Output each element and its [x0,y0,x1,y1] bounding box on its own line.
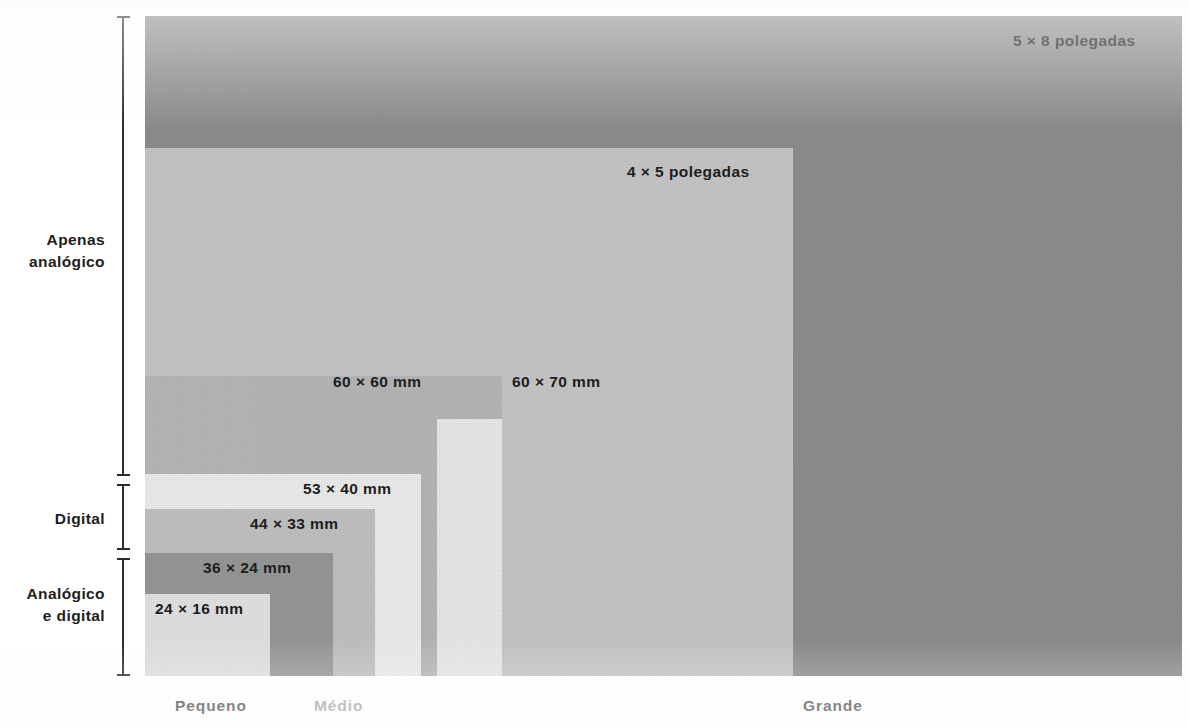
format-label-60x60: 60 × 60 mm [333,373,422,391]
bracket-cap-bottom [117,474,130,476]
axis-label-grande: Grande [803,697,863,715]
bracket-label-apenas-analogico: Apenas analógico [5,229,105,273]
sensor-size-comparison-figure: 5 × 8 polegadas4 × 5 polegadas60 × 70 mm… [0,0,1189,727]
format-rect-60x60 [437,419,502,676]
format-label-5x8: 5 × 8 polegadas [1013,32,1136,50]
format-label-4x5: 4 × 5 polegadas [627,163,750,181]
bracket-digital [117,484,130,550]
bracket-label-analogico-e-digital: Analógico e digital [5,583,105,627]
format-label-24x16: 24 × 16 mm [155,600,244,618]
bracket-stem [122,558,124,676]
axis-label-pequeno: Pequeno [175,697,247,715]
bracket-stem [122,16,124,476]
bracket-cap-bottom [117,674,130,676]
format-label-36x24: 36 × 24 mm [203,559,292,577]
bracket-apenas-analogico [117,16,130,476]
format-label-60x70: 60 × 70 mm [512,373,601,391]
bracket-analogico-e-digital [117,558,130,676]
bracket-label-digital: Digital [5,508,105,530]
format-label-44x33: 44 × 33 mm [250,515,339,533]
format-label-53x40: 53 × 40 mm [303,480,392,498]
bracket-stem [122,484,124,550]
axis-label-medio: Médio [314,697,363,715]
bracket-cap-bottom [117,548,130,550]
